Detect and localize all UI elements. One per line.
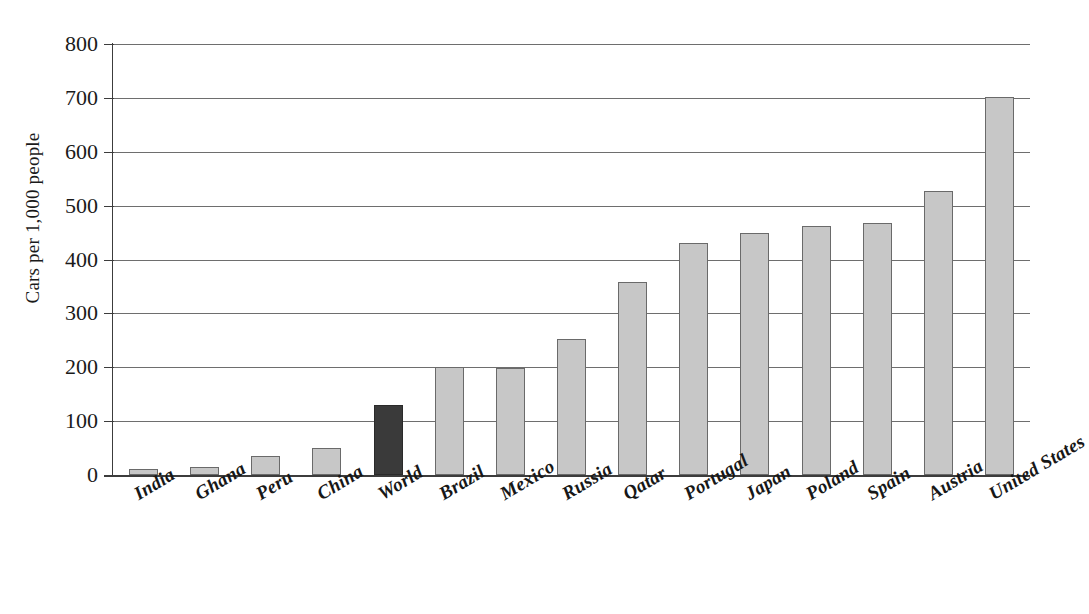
bar-portugal — [679, 243, 708, 475]
y-tick-mark-100 — [104, 421, 114, 422]
y-tick-mark-500 — [104, 206, 114, 207]
bar-poland — [802, 226, 831, 475]
bar-united-states — [985, 97, 1014, 475]
bar-brazil — [435, 367, 464, 475]
bar-spain — [863, 223, 892, 475]
y-tick-mark-600 — [104, 152, 114, 153]
y-tick-label-800: 800 — [28, 33, 98, 55]
y-tick-label-200: 200 — [28, 356, 98, 378]
x-axis-tick-labels: IndiaGhanaPeruChinaWorldBrazilMexicoRuss… — [0, 478, 1040, 614]
y-tick-label-700: 700 — [28, 87, 98, 109]
bar-world — [374, 405, 403, 475]
bar-mexico — [496, 368, 525, 475]
y-tick-mark-200 — [104, 367, 114, 368]
y-tick-mark-300 — [104, 313, 114, 314]
bars-layer — [113, 44, 1030, 475]
y-tick-label-100: 100 — [28, 410, 98, 432]
y-tick-label-300: 300 — [28, 302, 98, 324]
y-tick-mark-800 — [104, 44, 114, 45]
y-tick-label-400: 400 — [28, 249, 98, 271]
y-tick-mark-400 — [104, 260, 114, 261]
bar-russia — [557, 339, 586, 475]
bar-austria — [924, 191, 953, 475]
y-tick-mark-700 — [104, 98, 114, 99]
bar-japan — [740, 233, 769, 475]
y-tick-label-500: 500 — [28, 195, 98, 217]
y-tick-label-600: 600 — [28, 141, 98, 163]
bar-qatar — [618, 282, 647, 475]
y-tick-mark-0 — [104, 475, 114, 476]
